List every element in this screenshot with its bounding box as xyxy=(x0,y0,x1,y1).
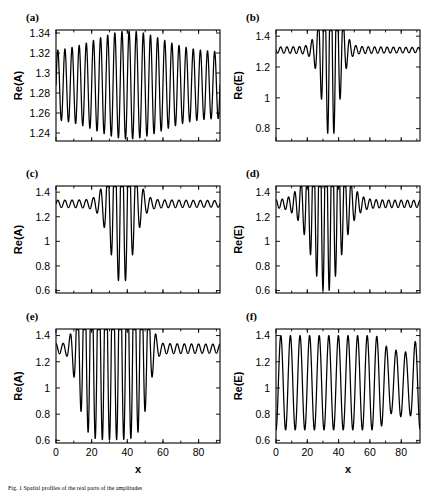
y-axis-title-d: Re(E) xyxy=(232,225,244,254)
panel-b: 0.811.21.4(b)Re(E) xyxy=(232,11,420,141)
panel-label-b: (b) xyxy=(246,11,260,24)
panel-f: 0204060800.60.811.21.4(f)Re(E)x xyxy=(232,310,420,475)
data-curve-f xyxy=(276,336,420,430)
y-tick-label-e-0: 0.6 xyxy=(35,434,50,446)
x-tick-label-f-0: 0 xyxy=(273,446,279,458)
x-tick-label-e-0: 0 xyxy=(53,446,59,458)
y-axis-title-c: Re(A) xyxy=(12,225,24,255)
data-curve-a xyxy=(56,31,220,139)
y-axis-title-b: Re(E) xyxy=(232,71,244,100)
y-tick-label-d-3: 1.2 xyxy=(255,211,270,223)
panel-label-a: (a) xyxy=(26,11,39,24)
y-tick-label-c-1: 0.8 xyxy=(35,260,50,272)
x-tick-label-f-4: 80 xyxy=(395,446,407,458)
y-tick-label-c-4: 1.4 xyxy=(35,186,50,198)
x-axis-title-f: x xyxy=(345,463,352,475)
x-tick-label-e-3: 60 xyxy=(157,446,169,458)
y-tick-label-f-2: 1 xyxy=(264,382,270,394)
plot-frame-d xyxy=(276,186,420,293)
y-tick-label-f-3: 1.2 xyxy=(255,356,270,368)
y-tick-label-d-1: 0.8 xyxy=(255,260,270,272)
y-tick-label-a-4: 1.32 xyxy=(30,47,51,59)
panel-label-c: (c) xyxy=(26,167,39,180)
y-tick-label-b-2: 1.2 xyxy=(255,61,270,73)
data-curve-e xyxy=(56,330,220,440)
y-tick-label-e-3: 1.2 xyxy=(35,356,50,368)
x-tick-label-f-1: 20 xyxy=(301,446,313,458)
y-tick-label-c-0: 0.6 xyxy=(35,284,50,296)
x-tick-label-f-3: 60 xyxy=(364,446,376,458)
panel-a: 1.241.261.281.31.321.34(a)Re(A) xyxy=(12,11,220,141)
y-tick-label-b-1: 1 xyxy=(264,92,270,104)
panel-label-e: (e) xyxy=(26,310,39,323)
y-tick-label-c-3: 1.2 xyxy=(35,211,50,223)
y-tick-label-f-0: 0.6 xyxy=(255,434,270,446)
y-tick-label-a-1: 1.26 xyxy=(30,107,51,119)
y-tick-label-f-4: 1.4 xyxy=(255,329,270,341)
y-tick-label-e-2: 1 xyxy=(44,382,50,394)
y-tick-label-a-3: 1.3 xyxy=(35,67,50,79)
data-curve-d xyxy=(276,187,420,291)
x-tick-label-e-2: 40 xyxy=(121,446,133,458)
y-axis-title-e: Re(A) xyxy=(12,371,24,401)
figure-caption: Fig. 1 Spatial profiles of the real part… xyxy=(8,485,143,491)
y-tick-label-e-1: 0.8 xyxy=(35,408,50,420)
x-tick-label-e-1: 20 xyxy=(86,446,98,458)
y-tick-label-d-2: 1 xyxy=(264,235,270,247)
panel-e: 0204060800.60.811.21.4(e)Re(A)x xyxy=(12,310,220,475)
y-tick-label-b-0: 0.8 xyxy=(255,122,270,134)
data-curve-c xyxy=(56,187,220,281)
y-axis-title-f: Re(E) xyxy=(232,371,244,400)
y-tick-label-a-5: 1.34 xyxy=(30,27,51,39)
y-tick-label-e-4: 1.4 xyxy=(35,329,50,341)
panel-label-f: (f) xyxy=(246,310,257,323)
y-tick-label-a-2: 1.28 xyxy=(30,87,51,99)
x-tick-label-f-2: 40 xyxy=(333,446,345,458)
y-tick-label-f-1: 0.8 xyxy=(255,408,270,420)
x-axis-title-e: x xyxy=(135,463,142,475)
data-curve-b xyxy=(276,31,420,134)
y-tick-label-a-0: 1.24 xyxy=(30,127,51,139)
x-tick-label-e-4: 80 xyxy=(193,446,205,458)
panel-c: 0.60.811.21.4(c)Re(A) xyxy=(12,167,220,296)
y-axis-title-a: Re(A) xyxy=(12,71,24,101)
y-tick-label-b-3: 1.4 xyxy=(255,30,270,42)
y-tick-label-d-4: 1.4 xyxy=(255,186,270,198)
y-tick-label-d-0: 0.6 xyxy=(255,284,270,296)
panel-d: 0.60.811.21.4(d)Re(E) xyxy=(232,167,420,296)
panel-label-d: (d) xyxy=(246,167,260,180)
y-tick-label-c-2: 1 xyxy=(44,235,50,247)
figure-panel-grid: 1.241.261.281.31.321.34(a)Re(A)0.811.21.… xyxy=(0,0,438,493)
